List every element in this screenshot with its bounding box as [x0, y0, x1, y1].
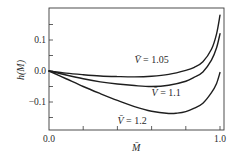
- series-label: V̄ = 1.2: [117, 115, 146, 126]
- plot-frame: [49, 8, 224, 130]
- line-chart: 0.01.0 −0.10.00.1 V̄ = 1.05V̄ = 1.1V̄ = …: [0, 0, 239, 158]
- y-tick-label: −0.1: [29, 97, 46, 107]
- x-axis-label: M̄: [131, 142, 141, 153]
- y-tick-label: 0.1: [34, 35, 46, 45]
- series-label: V̄ = 1.1: [152, 87, 181, 98]
- y-tick-label: 0.0: [34, 66, 46, 76]
- series-labels: V̄ = 1.05V̄ = 1.1V̄ = 1.2: [117, 54, 180, 125]
- svg-text:M̄: M̄: [131, 142, 141, 153]
- x-tick-label: 0.0: [43, 134, 55, 144]
- series-label: V̄ = 1.05: [135, 54, 169, 65]
- svg-text:h(M): h(M): [15, 59, 27, 80]
- series-line: [49, 15, 220, 77]
- x-tick-label: 1.0: [214, 134, 226, 144]
- y-axis-label: h(M): [15, 59, 27, 80]
